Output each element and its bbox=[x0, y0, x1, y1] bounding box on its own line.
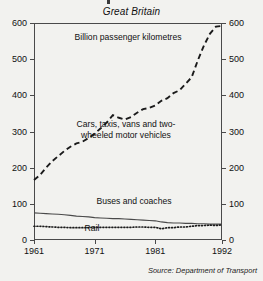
source-note: Source: Department of Transport bbox=[148, 266, 257, 275]
rail-line bbox=[34, 225, 222, 229]
plot-area: 0 100 200 300 400 500 600 0 100 200 300 … bbox=[34, 23, 222, 240]
y-tick-right-400 bbox=[222, 95, 226, 96]
y-label-left-0: 0 bbox=[22, 235, 27, 245]
x-tick-1971 bbox=[95, 240, 96, 244]
y-label-left-600: 600 bbox=[12, 18, 27, 28]
y-tick-right-100 bbox=[222, 204, 226, 205]
x-label-1971: 1971 bbox=[85, 246, 105, 256]
buses-annotation: Buses and coaches bbox=[96, 196, 171, 207]
y-label-left-200: 200 bbox=[12, 163, 27, 173]
buses-line bbox=[34, 213, 222, 224]
scan-artifact-mark bbox=[107, 0, 110, 4]
x-label-1981: 1981 bbox=[145, 246, 165, 256]
y-tick-right-300 bbox=[222, 132, 226, 133]
y-label-left-500: 500 bbox=[12, 54, 27, 64]
y-label-left-300: 300 bbox=[12, 127, 27, 137]
units-annotation: Billion passenger kilometres bbox=[75, 32, 182, 43]
y-tick-right-600 bbox=[222, 23, 226, 24]
x-tick-1961 bbox=[34, 240, 35, 244]
y-tick-right-200 bbox=[222, 168, 226, 169]
y-label-left-400: 400 bbox=[12, 90, 27, 100]
cars-annotation: Cars, taxis, vans and two-wheeled motor … bbox=[67, 119, 185, 140]
cars-line bbox=[34, 26, 222, 180]
y-label-right-200: 200 bbox=[229, 163, 244, 173]
x-label-1961: 1961 bbox=[24, 246, 44, 256]
x-tick-1992 bbox=[222, 240, 223, 244]
y-label-right-0: 0 bbox=[229, 235, 234, 245]
transport-chart-figure: Great Britain 0 100 200 300 400 500 600 … bbox=[0, 0, 263, 281]
y-label-right-300: 300 bbox=[229, 127, 244, 137]
y-label-right-400: 400 bbox=[229, 90, 244, 100]
y-label-left-100: 100 bbox=[12, 199, 27, 209]
x-tick-1981 bbox=[155, 240, 156, 244]
rail-annotation: Rail bbox=[85, 223, 100, 234]
x-label-1992: 1992 bbox=[212, 246, 232, 256]
y-label-right-100: 100 bbox=[229, 199, 244, 209]
y-tick-right-500 bbox=[222, 59, 226, 60]
y-label-right-500: 500 bbox=[229, 54, 244, 64]
y-label-right-600: 600 bbox=[229, 18, 244, 28]
chart-subtitle: Great Britain bbox=[0, 6, 263, 17]
